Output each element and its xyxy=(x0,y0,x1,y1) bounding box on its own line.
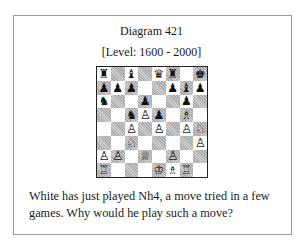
square-b8 xyxy=(111,67,125,81)
black-rook-icon: ♜ xyxy=(98,68,109,80)
white-pawn-icon: ♙ xyxy=(167,150,178,162)
square-h8: ♚ xyxy=(193,67,207,81)
square-g6: ♟ xyxy=(180,95,194,109)
white-pawn-icon: ♙ xyxy=(195,137,206,149)
black-pawn-icon: ♟ xyxy=(153,109,164,121)
square-f8: ♜ xyxy=(166,67,180,81)
square-d5: ♙ xyxy=(138,108,152,122)
black-bishop-icon: ♝ xyxy=(181,82,192,94)
square-c6 xyxy=(125,95,139,109)
square-g1: ♖ xyxy=(180,163,194,177)
square-a4 xyxy=(97,122,111,136)
square-h3: ♙ xyxy=(193,136,207,150)
square-d3 xyxy=(138,136,152,150)
square-c2 xyxy=(125,150,139,164)
black-pawn-icon: ♟ xyxy=(98,82,109,94)
square-h5 xyxy=(193,108,207,122)
white-king-icon: ♔ xyxy=(153,164,164,176)
black-pawn-icon: ♟ xyxy=(195,82,206,94)
diagram-title: Diagram 421 xyxy=(0,24,303,39)
square-a7: ♟ xyxy=(97,81,111,95)
square-d4 xyxy=(138,122,152,136)
square-a5 xyxy=(97,108,111,122)
square-c8: ♝ xyxy=(125,67,139,81)
square-h1 xyxy=(193,163,207,177)
white-pawn-icon: ♙ xyxy=(112,150,123,162)
square-c1 xyxy=(125,163,139,177)
square-f2: ♙ xyxy=(166,150,180,164)
black-pawn-icon: ♟ xyxy=(126,82,137,94)
square-f1: ♗ xyxy=(166,163,180,177)
white-pawn-icon: ♙ xyxy=(181,123,192,135)
square-e5: ♟ xyxy=(152,108,166,122)
chess-board: ♜♝♛♜♚♟♟♟♟♝♟♞♟♟♞♙♟♗♙♙♙♘♘♙♙♙♕♙♖♔♗♖ xyxy=(96,66,208,178)
question-text: White has just played Nh4, a move tried … xyxy=(29,188,279,222)
square-a3 xyxy=(97,136,111,150)
black-bishop-icon: ♝ xyxy=(126,68,137,80)
square-e1: ♔ xyxy=(152,163,166,177)
square-c7: ♟ xyxy=(125,81,139,95)
square-e4: ♙ xyxy=(152,122,166,136)
square-e7 xyxy=(152,81,166,95)
black-rook-icon: ♜ xyxy=(167,68,178,80)
square-e6 xyxy=(152,95,166,109)
square-h6 xyxy=(193,95,207,109)
square-f5 xyxy=(166,108,180,122)
black-pawn-icon: ♟ xyxy=(167,82,178,94)
square-g2 xyxy=(180,150,194,164)
white-queen-icon: ♕ xyxy=(140,150,151,162)
square-g8 xyxy=(180,67,194,81)
white-pawn-icon: ♙ xyxy=(153,123,164,135)
square-h4: ♘ xyxy=(193,122,207,136)
black-pawn-icon: ♟ xyxy=(140,95,151,107)
square-e8: ♛ xyxy=(152,67,166,81)
square-g5: ♗ xyxy=(180,108,194,122)
square-a1: ♖ xyxy=(97,163,111,177)
square-b5 xyxy=(111,108,125,122)
square-f7: ♟ xyxy=(166,81,180,95)
square-a6: ♞ xyxy=(97,95,111,109)
square-g3 xyxy=(180,136,194,150)
white-knight-icon: ♘ xyxy=(195,123,206,135)
square-d2: ♕ xyxy=(138,150,152,164)
square-a8: ♜ xyxy=(97,67,111,81)
square-e2 xyxy=(152,150,166,164)
square-d1 xyxy=(138,163,152,177)
square-b2: ♙ xyxy=(111,150,125,164)
white-rook-icon: ♖ xyxy=(98,164,109,176)
black-pawn-icon: ♟ xyxy=(181,95,192,107)
square-e3 xyxy=(152,136,166,150)
white-bishop-icon: ♗ xyxy=(167,164,178,176)
square-h7: ♟ xyxy=(193,81,207,95)
square-f3 xyxy=(166,136,180,150)
square-f6 xyxy=(166,95,180,109)
black-knight-icon: ♞ xyxy=(98,95,109,107)
square-b7: ♟ xyxy=(111,81,125,95)
square-b6 xyxy=(111,95,125,109)
square-b4 xyxy=(111,122,125,136)
white-knight-icon: ♘ xyxy=(126,137,137,149)
square-f4 xyxy=(166,122,180,136)
white-bishop-icon: ♗ xyxy=(181,109,192,121)
white-rook-icon: ♖ xyxy=(181,164,192,176)
square-c4: ♙ xyxy=(125,122,139,136)
black-king-icon: ♚ xyxy=(195,68,206,80)
black-queen-icon: ♛ xyxy=(153,68,164,80)
square-g7: ♝ xyxy=(180,81,194,95)
square-d6: ♟ xyxy=(138,95,152,109)
white-pawn-icon: ♙ xyxy=(126,123,137,135)
black-knight-icon: ♞ xyxy=(126,109,137,121)
square-a2: ♙ xyxy=(97,150,111,164)
square-h2 xyxy=(193,150,207,164)
level-range: [Level: 1600 - 2000] xyxy=(0,45,303,60)
square-d7 xyxy=(138,81,152,95)
square-g4: ♙ xyxy=(180,122,194,136)
square-c5: ♞ xyxy=(125,108,139,122)
square-b3 xyxy=(111,136,125,150)
white-pawn-icon: ♙ xyxy=(98,150,109,162)
square-d8 xyxy=(138,67,152,81)
square-c3: ♘ xyxy=(125,136,139,150)
black-pawn-icon: ♟ xyxy=(112,82,123,94)
white-pawn-icon: ♙ xyxy=(140,109,151,121)
square-b1 xyxy=(111,163,125,177)
